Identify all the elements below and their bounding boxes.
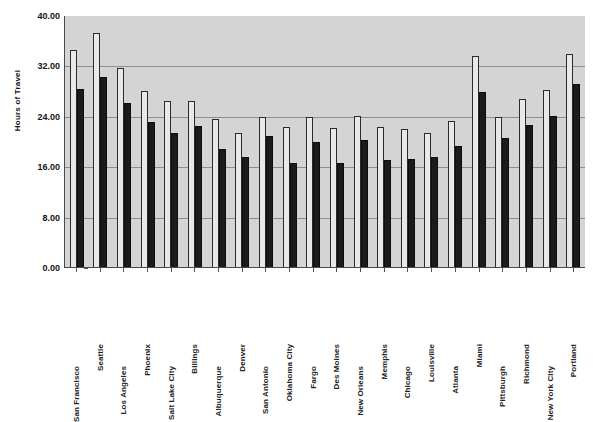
x-axis-category-cell: Phoenix [135,268,159,368]
bar [448,121,455,267]
x-axis-category-label: Seattle [95,344,104,371]
bar-group [160,16,184,267]
bar-group [538,16,562,267]
x-axis-category-cell: Louisville [419,268,443,368]
bar [472,56,479,267]
bar-group [254,16,278,267]
bar-group [278,16,302,267]
bar [543,90,550,267]
x-axis-tick-mark [194,268,195,272]
bar [526,125,533,267]
x-axis-tick-mark [76,268,77,272]
bar [550,116,557,267]
bar [148,122,155,267]
bar [479,92,486,267]
x-axis-category-cell: Denver [230,268,254,368]
x-axis-category-label: San Antonio [261,366,270,414]
bar-group [467,16,491,267]
y-axis-tick-label: 32.00 [24,61,60,71]
bar [259,117,266,267]
bar [337,163,344,267]
x-axis-category-label: San Francisco [71,366,80,422]
bar [377,127,384,267]
x-axis-tick-mark [218,268,219,272]
y-axis-tick-label: 40.00 [24,11,60,21]
x-axis-category-cell: Portland [561,268,585,368]
x-axis-category-label: New York City [545,366,554,420]
x-axis-category-label: Pittsburgh [498,366,507,407]
bar [502,138,509,267]
x-axis-tick-mark [265,268,266,272]
bar [495,117,502,267]
y-axis-tick-labels: 40.0032.0024.0016.008.000.00 [24,0,60,368]
bar-group [112,16,136,267]
x-axis-category-cell: Chicago [396,268,420,368]
x-axis-tick-mark [123,268,124,272]
x-axis-category-label: Miami [474,344,483,367]
x-axis-tick-mark [360,268,361,272]
bar-group [325,16,349,267]
x-axis-category-label: Fargo [308,366,317,389]
x-axis-category-label: Atlanta [450,366,459,394]
bar-group [443,16,467,267]
x-axis-category-cell: New York City [538,268,562,368]
bar [354,116,361,267]
bar-group [491,16,515,267]
x-axis-tick-mark [100,268,101,272]
x-axis-tick-mark [407,268,408,272]
x-axis-category-cell: New Orleans [348,268,372,368]
x-axis-category-label: Los Angeles [119,366,128,414]
bar-group [65,16,89,267]
x-axis-category-cell: Los Angeles [111,268,135,368]
x-axis-tick-mark [242,268,243,272]
y-axis-tick-label: 24.00 [24,112,60,122]
x-axis-category-cell: San Francisco [64,268,88,368]
x-axis-tick-mark [479,268,480,272]
x-axis-tick-mark [336,268,337,272]
x-axis-category-label: Chicago [403,366,412,398]
bar [219,149,226,267]
bar-group [396,16,420,267]
x-axis-category-label: Denver [237,344,246,372]
x-axis-category-cell: Fargo [301,268,325,368]
x-axis-category-label: Portland [569,344,578,377]
x-axis-category-label: New Orleans [356,366,365,416]
x-axis-tick-mark [171,268,172,272]
bar [408,159,415,267]
x-axis-category-label: Louisville [427,344,436,382]
x-axis-tick-mark [289,268,290,272]
bar [306,117,313,267]
bar [330,128,337,267]
x-axis-tick-mark [573,268,574,272]
bar [164,101,171,267]
x-axis-category-cell: Richmond [514,268,538,368]
bar [566,54,573,267]
x-axis-category-label: Des Moines [332,344,341,389]
bar-group [372,16,396,267]
x-axis-tick-mark [384,268,385,272]
bar [77,89,84,267]
bar [212,119,219,267]
x-axis-tick-mark [431,268,432,272]
x-axis-tick-mark [313,268,314,272]
bar [171,133,178,267]
bar-group [561,16,585,267]
bar [266,136,273,267]
bar [424,133,431,267]
x-axis-category-label: Salt Lake City [166,366,175,420]
bar-group [514,16,538,267]
x-axis-tick-mark [455,268,456,272]
bar-group [136,16,160,267]
x-axis-category-cell: Billings [182,268,206,368]
bar-series-container [65,16,585,267]
plot-area [64,16,585,268]
bar-group [349,16,373,267]
x-axis-category-label: Richmond [521,344,530,384]
y-axis-title: Hours of Travel [13,31,22,171]
x-axis-category-label: Oklahoma City [285,344,294,401]
bar [188,101,195,267]
x-axis-category-cell: Pittsburgh [490,268,514,368]
bar [283,127,290,267]
x-axis-category-label: Memphis [379,344,388,379]
y-axis-tick-label: 0.00 [24,263,60,273]
